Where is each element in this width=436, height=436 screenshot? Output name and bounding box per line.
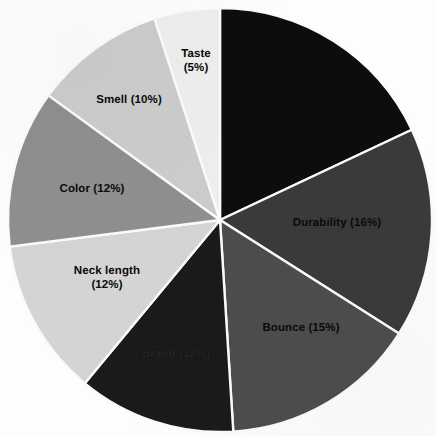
pie-chart-figure: Durability (16%)Bounce (15%)Brand (12%)N… bbox=[0, 0, 436, 436]
pie-chart-svg bbox=[0, 0, 436, 436]
pie-slice-group bbox=[8, 8, 432, 432]
